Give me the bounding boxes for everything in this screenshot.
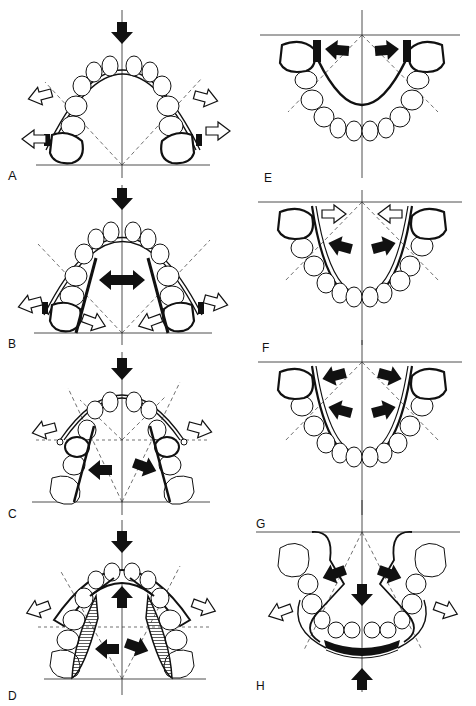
- panel-h: [256, 500, 460, 692]
- panel-label-e: E: [264, 171, 272, 185]
- panel-e: [260, 10, 460, 178]
- panel-label-d: D: [8, 689, 17, 703]
- panel-label-f: F: [262, 341, 269, 355]
- panel-f: [258, 190, 462, 345]
- force-arrow-down-icon: [111, 22, 133, 44]
- panel-label-b: B: [8, 337, 16, 351]
- panel-label-g: G: [256, 517, 265, 531]
- panel-c: [30, 352, 214, 515]
- panel-label-c: C: [8, 507, 17, 521]
- panel-d: [24, 520, 219, 695]
- panel-label-a: A: [8, 168, 17, 183]
- panel-b: [16, 185, 230, 345]
- panel-a: [22, 10, 230, 178]
- panel-g: [258, 340, 462, 515]
- panel-label-h: H: [256, 679, 265, 693]
- dental-diagram-canvas: A B: [0, 0, 476, 706]
